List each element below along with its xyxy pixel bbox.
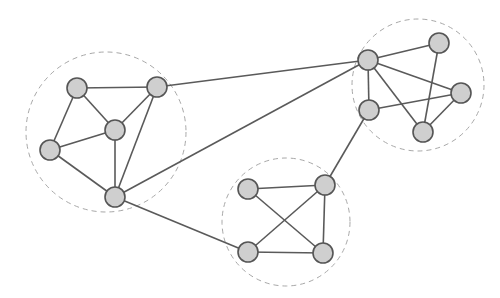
- graph-edges: [50, 43, 461, 253]
- edge-F-J: [368, 60, 423, 132]
- node-N: [313, 243, 333, 263]
- edge-F-G: [368, 43, 439, 60]
- node-A: [67, 78, 87, 98]
- node-J: [413, 122, 433, 142]
- node-L: [315, 175, 335, 195]
- node-K: [238, 179, 258, 199]
- node-C: [105, 120, 125, 140]
- edge-F-H: [368, 60, 461, 93]
- edge-A-B: [77, 87, 157, 88]
- edge-D-E: [50, 150, 115, 197]
- node-D: [40, 140, 60, 160]
- node-B: [147, 77, 167, 97]
- edge-M-N: [248, 252, 323, 253]
- node-M: [238, 242, 258, 262]
- edge-K-N: [248, 189, 323, 253]
- node-F: [358, 50, 378, 70]
- edge-B-F: [157, 60, 368, 87]
- node-E: [105, 187, 125, 207]
- edge-B-E: [115, 87, 157, 197]
- graph-nodes: [40, 33, 471, 263]
- edge-K-L: [248, 185, 325, 189]
- network-diagram: [0, 0, 500, 298]
- edge-I-L: [325, 110, 369, 185]
- node-H: [451, 83, 471, 103]
- node-I: [359, 100, 379, 120]
- edge-E-M: [115, 197, 248, 252]
- edge-L-M: [248, 185, 325, 252]
- node-G: [429, 33, 449, 53]
